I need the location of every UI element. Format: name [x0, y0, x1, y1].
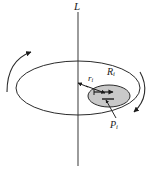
- rotating-disk-figure: L ri Ri Pi: [0, 0, 160, 170]
- axis-label: L: [74, 1, 80, 12]
- figure-drawing: [0, 0, 160, 170]
- particle-disk: [88, 85, 130, 107]
- distance-label: ri: [88, 74, 93, 83]
- distance-arrow-inward: [78, 83, 88, 87]
- radius-label: Ri: [107, 67, 115, 78]
- particle-label: Pi: [110, 120, 118, 131]
